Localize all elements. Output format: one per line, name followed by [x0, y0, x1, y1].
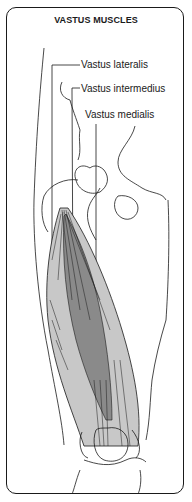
femoral-head	[75, 166, 108, 193]
label-vastus-lateralis: Vastus lateralis	[81, 59, 148, 70]
label-vastus-medialis: Vastus medialis	[85, 109, 154, 120]
thigh-anatomy-illustration	[0, 0, 192, 502]
thigh-outline-right	[146, 320, 166, 440]
obturator-foramen	[115, 196, 138, 220]
pelvis-outline	[60, 82, 80, 160]
label-vastus-intermedius: Vastus intermedius	[81, 83, 165, 94]
vastus-muscles	[47, 208, 139, 446]
